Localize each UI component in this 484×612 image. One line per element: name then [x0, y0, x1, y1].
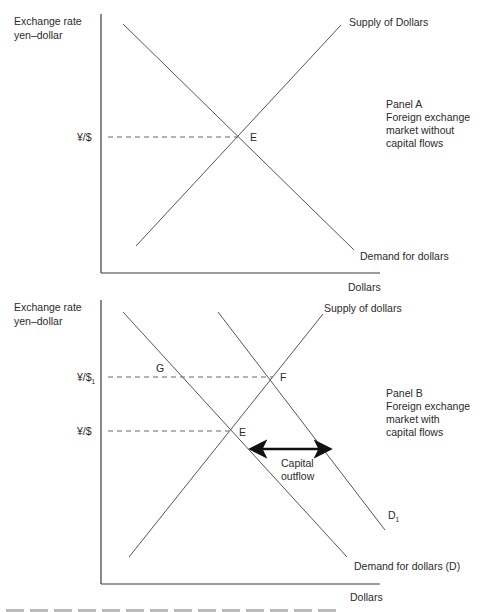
panel-b-rate-tick: ¥/$	[76, 425, 92, 437]
panel-b-demand-shifted-curve	[218, 312, 385, 530]
panel-b-point-e: E	[239, 426, 246, 438]
panel-a-rate-tick: ¥/$	[76, 131, 92, 143]
panel-b-demand-curve	[123, 312, 347, 557]
panel-b-point-f: F	[280, 371, 286, 383]
panel-b-point-g: G	[156, 362, 164, 374]
panel-a-supply-label: Supply of Dollars	[349, 16, 428, 28]
panel-b-x-axis-label: Dollars	[350, 591, 383, 603]
panel-a-title: Panel A	[386, 98, 422, 110]
panel-b-desc-2: market with	[386, 413, 440, 425]
panel-b: Exchange rate yen–dollar Dollars ¥/$1 ¥/…	[14, 300, 470, 603]
panel-b-y-axis-label-1: Exchange rate	[14, 301, 82, 313]
panel-b-title: Panel B	[386, 387, 423, 399]
panel-b-desc-3: capital flows	[386, 426, 443, 438]
panel-b-desc-1: Foreign exchange	[386, 400, 470, 412]
panel-b-supply-label: Supply of dollars	[324, 302, 402, 314]
panel-a-desc-1: Foreign exchange	[386, 111, 470, 123]
fx-market-diagram: Exchange rate yen–dollar Dollars ¥/$ E S…	[0, 0, 484, 612]
panel-a-supply-curve	[136, 25, 341, 246]
figure-caption-clipped	[6, 606, 336, 612]
panel-a-y-axis-label-2: yen–dollar	[14, 29, 63, 41]
panel-a-demand-label: Demand for dollars	[360, 250, 449, 262]
panel-a-x-axis-label: Dollars	[348, 281, 381, 293]
panel-b-demand-shifted-label: D1	[388, 509, 400, 523]
panel-a-point-e: E	[250, 131, 257, 143]
panel-a-desc-3: capital flows	[386, 137, 443, 149]
panel-b-rate1-tick: ¥/$1	[76, 371, 96, 385]
panel-a-y-axis-label-1: Exchange rate	[14, 15, 82, 27]
panel-a: Exchange rate yen–dollar Dollars ¥/$ E S…	[14, 14, 470, 293]
arrow-label-1: Capital	[281, 457, 314, 469]
panel-a-desc-2: market without	[386, 124, 454, 136]
panel-b-y-axis-label-2: yen–dollar	[14, 315, 63, 327]
arrow-label-2: outflow	[281, 470, 315, 482]
panel-b-demand-label: Demand for dollars (D)	[354, 560, 460, 572]
